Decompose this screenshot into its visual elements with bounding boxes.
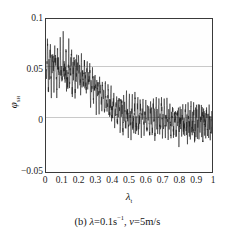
- signal-polyline: [46, 31, 212, 147]
- y-axis-title-text: φsн: [7, 82, 21, 122]
- y-tick-3: −0.05: [21, 167, 43, 177]
- x-axis-title: λt: [45, 190, 213, 204]
- x-tick-0: 0: [43, 176, 48, 186]
- caption-separator: ,: [124, 216, 127, 227]
- x-tick-9: 0.9: [190, 176, 202, 186]
- y-tick-0: 0.1: [31, 14, 43, 24]
- figure-container: 0.1 0.05 0 −0.05 φsн 0 0.1 0.2 0.3 0.4 0…: [0, 0, 235, 233]
- x-tick-10: 1: [211, 176, 216, 186]
- x-tick-4: 0.4: [106, 176, 118, 186]
- x-axis-ticks: 0 0.1 0.2 0.3 0.4 0.5 0.6 0.7 0.8 0.9 1: [45, 176, 213, 190]
- figure-caption: (b) λ=0.1s−1, v=5m/s: [0, 214, 235, 227]
- caption-prefix: (b): [75, 216, 87, 227]
- x-tick-3: 0.3: [89, 176, 101, 186]
- signal-curve: [46, 19, 212, 172]
- y-axis-title: φsн: [2, 78, 24, 126]
- x-tick-2: 0.2: [73, 176, 85, 186]
- y-axis-title-symbol: φ: [7, 102, 19, 108]
- x-tick-5: 0.5: [123, 176, 135, 186]
- y-tick-1: 0.05: [26, 65, 43, 75]
- y-tick-2: 0: [38, 116, 43, 126]
- caption-lambda-value: =0.1s: [94, 216, 117, 227]
- x-axis-title-subscript: t: [130, 197, 132, 204]
- x-tick-6: 0.6: [140, 176, 152, 186]
- y-axis-title-subscript: sн: [14, 96, 21, 102]
- x-tick-8: 0.8: [173, 176, 185, 186]
- caption-v-value: =5m/s: [134, 216, 160, 227]
- x-tick-1: 0.1: [56, 176, 68, 186]
- plot-area: [45, 18, 213, 173]
- x-tick-7: 0.7: [157, 176, 169, 186]
